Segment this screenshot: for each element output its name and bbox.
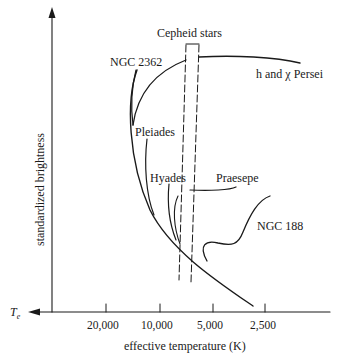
label-h-chi-persei: h and χ Persei <box>256 68 323 80</box>
y-axis-arrow-icon <box>49 7 56 18</box>
label-ngc-188: NGC 188 <box>257 220 303 232</box>
tick-label-5000: 5,000 <box>197 320 223 332</box>
tick-label-2500: 2,500 <box>250 320 276 332</box>
h-chi-persei-giant-branch <box>199 56 300 63</box>
label-pleiades: Pleiades <box>135 126 175 138</box>
te-main: T <box>10 305 17 319</box>
cepheid-strip <box>179 45 199 282</box>
label-cepheid-stars: Cepheid stars <box>157 27 222 39</box>
praesepe-curve <box>190 187 236 190</box>
tick-label-10000: 10,000 <box>141 320 173 332</box>
te-sub: e <box>17 312 21 321</box>
x-axis-title: effective temperature (K) <box>124 340 246 352</box>
y-axis-title: standardized brightness <box>34 133 46 246</box>
label-hyades: Hyades <box>150 172 186 184</box>
tick-label-20000: 20,000 <box>87 320 119 332</box>
label-ngc-2362: NGC 2362 <box>110 56 162 68</box>
label-praesepe: Praesepe <box>216 172 259 184</box>
h-chi-persei-curve <box>133 60 186 125</box>
x-axis-arrow-label: Te <box>10 306 20 321</box>
hr-diagram-cluster-sequences: Cepheid stars NGC 2362 h and χ Persei Pl… <box>0 0 350 359</box>
x-axis-arrow-icon <box>28 309 40 316</box>
